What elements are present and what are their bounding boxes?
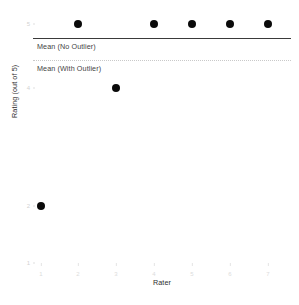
x-axis-title: Rater [33, 278, 291, 287]
y-tick-1-label: 1 [27, 260, 30, 266]
y-tick-2: 2 [27, 203, 33, 209]
x-tick-1-mark [41, 263, 42, 266]
x-tick-6: 6 [228, 266, 231, 277]
y-tick-1-mark [33, 263, 35, 264]
scatter-chart: Mean (No Outlier) Mean (With Outlier) 5 … [0, 0, 299, 305]
reference-line-mean-with-outlier [33, 60, 291, 61]
data-point [74, 20, 82, 28]
data-point [264, 20, 272, 28]
reference-label-mean-with-outlier: Mean (With Outlier) [37, 64, 101, 73]
x-tick-1-label: 1 [39, 271, 42, 277]
x-tick-5-label: 5 [190, 271, 193, 277]
x-tick-4-mark [154, 263, 155, 266]
x-tick-5: 5 [190, 266, 193, 277]
data-point [150, 20, 158, 28]
data-point [226, 20, 234, 28]
y-tick-5: 5 [27, 21, 33, 27]
reference-label-mean-no-outlier: Mean (No Outlier) [37, 42, 96, 51]
y-tick-4: 4 [27, 85, 33, 91]
plot-area: Mean (No Outlier) Mean (With Outlier) 5 … [33, 8, 291, 266]
x-tick-3: 3 [114, 266, 117, 277]
y-tick-5-label: 5 [27, 21, 30, 27]
x-tick-3-mark [116, 263, 117, 266]
y-tick-5-mark [33, 24, 35, 25]
x-tick-4: 4 [152, 266, 155, 277]
x-tick-7: 7 [266, 266, 269, 277]
y-axis-title: Rating (out of 5) [10, 65, 19, 118]
x-tick-7-label: 7 [266, 271, 269, 277]
y-tick-4-mark [33, 88, 35, 89]
y-tick-4-label: 4 [27, 85, 30, 91]
x-tick-2-label: 2 [76, 271, 79, 277]
x-tick-6-mark [230, 263, 231, 266]
y-tick-2-label: 2 [27, 203, 30, 209]
data-point [37, 202, 45, 210]
y-tick-2-mark [33, 206, 35, 207]
x-tick-6-label: 6 [228, 271, 231, 277]
x-tick-2: 2 [76, 266, 79, 277]
x-tick-2-mark [78, 263, 79, 266]
data-point [112, 84, 120, 92]
data-point [188, 20, 196, 28]
x-tick-5-mark [192, 263, 193, 266]
x-tick-3-label: 3 [114, 271, 117, 277]
reference-line-mean-no-outlier [33, 38, 291, 39]
x-tick-1: 1 [39, 266, 42, 277]
y-tick-1: 1 [27, 260, 33, 266]
x-tick-4-label: 4 [152, 271, 155, 277]
x-tick-7-mark [268, 263, 269, 266]
